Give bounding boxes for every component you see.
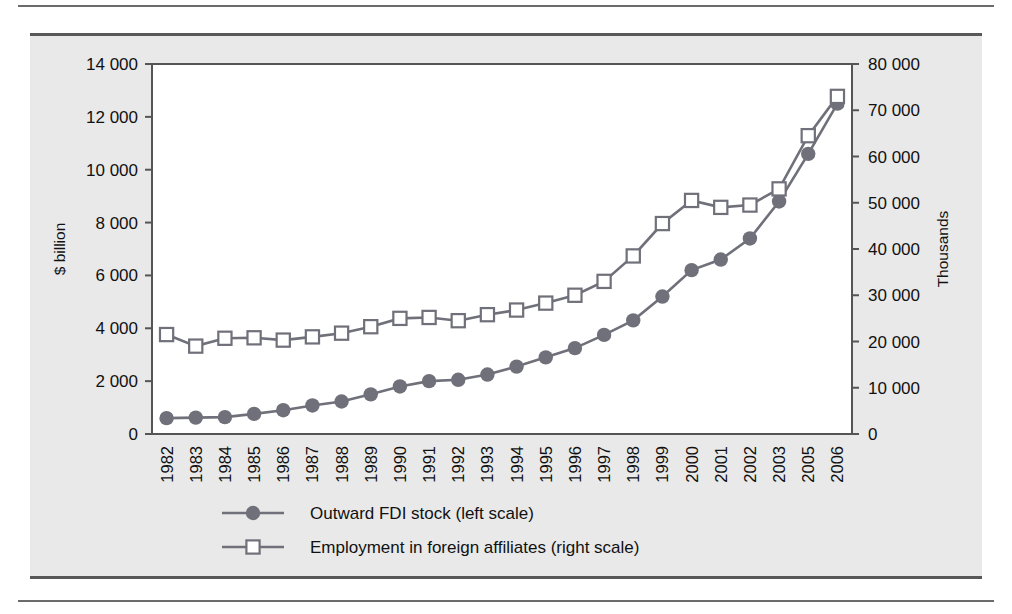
data-point-marker xyxy=(656,217,669,230)
right-axis-tick-label: 70 000 xyxy=(868,101,920,120)
data-point-marker xyxy=(306,330,319,343)
left-axis-title: $ billion xyxy=(51,223,68,276)
x-axis-tick-label: 1999 xyxy=(653,446,671,483)
legend-marker xyxy=(246,540,259,553)
data-point-marker xyxy=(480,367,494,381)
x-axis-tick-label: 2006 xyxy=(828,446,846,483)
data-point-marker xyxy=(772,182,785,195)
data-point-marker xyxy=(422,311,435,324)
data-point-marker xyxy=(159,411,173,425)
right-axis-tick-label: 10 000 xyxy=(868,379,920,398)
data-point-marker xyxy=(305,398,319,412)
data-point-marker xyxy=(335,327,348,340)
data-point-marker xyxy=(393,312,406,325)
data-point-marker xyxy=(364,320,377,333)
x-axis-tick-label: 1995 xyxy=(537,446,555,483)
x-axis-tick-label: 1982 xyxy=(158,446,176,483)
data-point-marker xyxy=(802,129,815,142)
left-axis-tick-label: 2 000 xyxy=(95,372,138,391)
left-axis-tick-label: 6 000 xyxy=(95,266,138,285)
data-point-marker xyxy=(160,328,173,341)
data-point-marker xyxy=(189,410,203,424)
data-point-marker xyxy=(568,341,582,355)
x-axis-tick-label: 1991 xyxy=(420,446,438,483)
legend-label: Employment in foreign affiliates (right … xyxy=(310,538,639,557)
x-axis-tick-label: 1997 xyxy=(595,446,613,483)
data-point-marker xyxy=(189,340,202,353)
x-axis-tick-label: 2003 xyxy=(770,446,788,483)
plot-frame xyxy=(152,64,852,434)
x-axis-tick-label: 1984 xyxy=(216,446,234,483)
x-axis-tick-label: 1998 xyxy=(624,446,642,483)
left-axis-tick-label: 14 000 xyxy=(86,55,138,74)
x-axis-tick-label: 1985 xyxy=(245,446,263,483)
x-axis-tick-label: 1996 xyxy=(566,446,584,483)
data-point-marker xyxy=(539,350,553,364)
right-axis-tick-label: 40 000 xyxy=(868,240,920,259)
data-point-marker xyxy=(452,314,465,327)
right-axis-tick-label: 60 000 xyxy=(868,148,920,167)
data-point-marker xyxy=(422,374,436,388)
right-axis-tick-label: 20 000 xyxy=(868,333,920,352)
right-axis-tick-label: 30 000 xyxy=(868,286,920,305)
x-axis-tick-label: 1990 xyxy=(391,446,409,483)
data-point-marker xyxy=(481,308,494,321)
x-axis-ticks: 1982198319841985198619871988198919901991… xyxy=(158,446,847,483)
data-point-marker xyxy=(831,90,844,103)
data-point-marker xyxy=(393,379,407,393)
data-point-marker xyxy=(451,373,465,387)
right-axis-ticks: 010 00020 00030 00040 00050 00060 00070 … xyxy=(852,55,920,444)
x-axis-tick-label: 1994 xyxy=(508,446,526,483)
data-point-marker xyxy=(276,403,290,417)
data-point-marker xyxy=(743,231,757,245)
chart-svg: 02 0004 0006 0008 00010 00012 00014 000 … xyxy=(0,0,1012,614)
data-point-marker xyxy=(277,334,290,347)
left-axis-tick-label: 0 xyxy=(129,425,138,444)
right-axis-title: Thousands xyxy=(934,210,951,287)
data-point-marker xyxy=(743,198,756,211)
x-axis-tick-label: 1988 xyxy=(333,446,351,483)
data-point-marker xyxy=(247,407,261,421)
data-point-marker xyxy=(597,328,611,342)
data-point-marker xyxy=(218,410,232,424)
right-axis-tick-label: 50 000 xyxy=(868,194,920,213)
figure-root: 02 0004 0006 0008 00010 00012 00014 000 … xyxy=(0,0,1012,614)
chart-legend: Outward FDI stock (left scale)Employment… xyxy=(222,504,639,557)
data-point-marker xyxy=(685,194,698,207)
data-point-marker xyxy=(539,297,552,310)
data-point-marker xyxy=(510,303,523,316)
x-axis-tick-label: 2002 xyxy=(741,446,759,483)
data-point-marker xyxy=(627,249,640,262)
data-point-marker xyxy=(801,147,815,161)
left-axis-tick-label: 10 000 xyxy=(86,161,138,180)
data-point-marker xyxy=(509,359,523,373)
x-axis-tick-label: 2000 xyxy=(683,446,701,483)
data-point-marker xyxy=(626,313,640,327)
x-axis-tick-label: 1993 xyxy=(478,446,496,483)
data-point-marker xyxy=(597,275,610,288)
data-point-marker xyxy=(334,394,348,408)
data-point-marker xyxy=(655,289,669,303)
x-axis-tick-label: 1986 xyxy=(274,446,292,483)
x-axis-tick-label: 1987 xyxy=(303,446,321,483)
left-axis-tick-label: 4 000 xyxy=(95,319,138,338)
x-axis-tick-label: 2001 xyxy=(712,446,730,483)
data-point-marker xyxy=(684,263,698,277)
data-point-marker xyxy=(714,252,728,266)
left-axis-ticks: 02 0004 0006 0008 00010 00012 00014 000 xyxy=(86,55,152,444)
x-axis-tick-label: 1983 xyxy=(187,446,205,483)
x-axis-tick-label: 1989 xyxy=(362,446,380,483)
data-point-marker xyxy=(714,201,727,214)
legend-label: Outward FDI stock (left scale) xyxy=(310,504,534,523)
x-axis-tick-label: 2005 xyxy=(799,446,817,483)
left-axis-tick-label: 8 000 xyxy=(95,214,138,233)
data-point-marker xyxy=(247,331,260,344)
data-point-marker xyxy=(364,387,378,401)
legend-marker xyxy=(246,506,260,520)
x-axis-tick-label: 1992 xyxy=(449,446,467,483)
right-axis-tick-label: 80 000 xyxy=(868,55,920,74)
left-axis-tick-label: 12 000 xyxy=(86,108,138,127)
right-axis-tick-label: 0 xyxy=(868,425,877,444)
data-point-marker xyxy=(218,332,231,345)
chart-area: 02 0004 0006 0008 00010 00012 00014 000 … xyxy=(0,0,1012,614)
